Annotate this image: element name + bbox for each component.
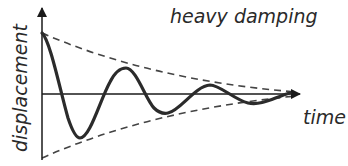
damping-diagram: heavy damping time displacement xyxy=(0,0,348,166)
upper-envelope xyxy=(42,33,296,92)
diagram-title: heavy damping xyxy=(170,5,318,27)
oscillation-curve xyxy=(42,33,290,138)
y-axis-label: displacement xyxy=(9,22,31,152)
lower-envelope xyxy=(42,96,296,158)
x-axis-label: time xyxy=(303,106,346,128)
